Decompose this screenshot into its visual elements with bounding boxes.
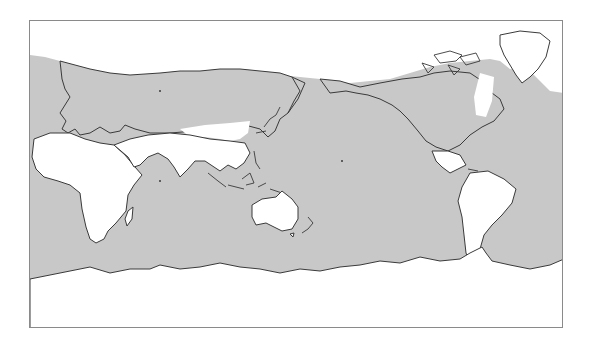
map-canvas: [30, 21, 563, 328]
eurasia-north: [60, 61, 300, 137]
island-dot: [159, 180, 161, 182]
island-dot: [341, 160, 343, 162]
world-map: [29, 20, 563, 328]
island-dot: [159, 90, 161, 92]
